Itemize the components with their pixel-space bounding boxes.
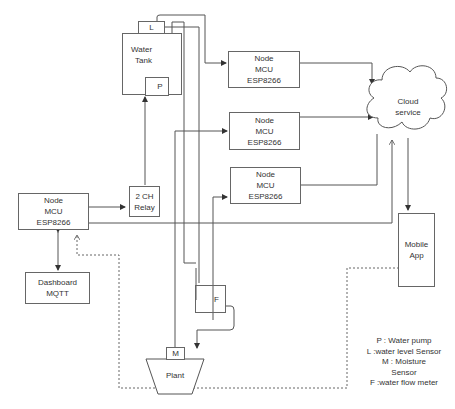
water-tank-label-1: Water [131,44,152,55]
node-low-label-2: MCU [256,180,274,191]
node-main-label-1: Node [44,195,63,206]
plant: Plant [160,370,190,381]
flow-meter-label: F [214,294,219,305]
water-tank-label-2: Tank [131,55,152,66]
legend-item-pump: P : Water pump [352,336,455,347]
node-mcu-low: Node MCU ESP8266 [230,167,301,204]
mobile-app-label-1: Mobile [405,239,429,250]
relay-2ch: 2 CH Relay [129,186,160,217]
node-top-label-1: Node [254,53,273,64]
plant-label: Plant [166,371,184,380]
legend-item-moisture-cont: Sensor [352,368,455,379]
node-top-label-2: MCU [255,64,273,75]
moisture-sensor-label: M [172,348,179,359]
legend-item-flow-meter: F :water flow meter [352,378,455,389]
pump-P: P [145,77,169,96]
flow-meter-F: F [195,285,226,313]
node-mcu-main: Node MCU ESP8266 [18,193,89,230]
pump-label: P [151,81,162,92]
level-sensor-L: L [138,21,165,34]
relay-label-2: Relay [134,202,154,213]
cloud-label-1: Cloud [388,96,428,107]
node-main-label-3: ESP8266 [37,217,71,228]
relay-label-1: 2 CH [135,191,153,202]
node-low-label-3: ESP8266 [249,191,283,202]
node-main-label-2: MCU [44,206,62,217]
legend-item-level-sensor: L :water level Sensor [352,347,455,358]
dashboard-mqtt: Dashboard MQTT [25,272,90,304]
cloud-service: Cloud service [388,96,428,118]
node-top-label-3: ESP8266 [247,75,281,86]
node-mid-label-1: Node [255,115,274,126]
node-low-label-1: Node [256,169,275,180]
legend: P : Water pump L :water level Sensor M :… [352,336,455,389]
dashboard-label-2: MQTT [46,288,69,299]
mobile-app: Mobile App [398,213,435,287]
moisture-sensor-M: M [166,347,185,360]
node-mcu-mid: Node MCU ESP8266 [229,112,300,150]
cloud-label-2: service [388,107,428,118]
legend-item-moisture: M : Moisture [352,357,455,368]
node-mcu-top: Node MCU ESP8266 [228,51,300,88]
level-sensor-label: L [149,22,153,33]
mobile-app-label-2: App [409,250,423,261]
dashboard-label-1: Dashboard [38,277,77,288]
node-mid-label-2: MCU [255,126,273,137]
node-mid-label-3: ESP8266 [248,137,282,148]
